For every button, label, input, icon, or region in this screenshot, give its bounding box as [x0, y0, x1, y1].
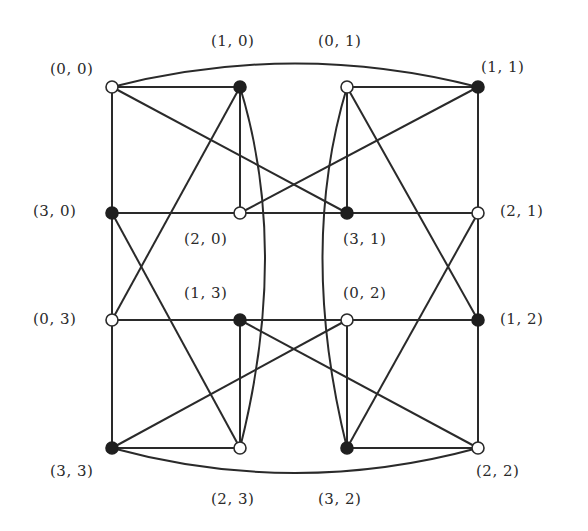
edge-0-1-to-3-2	[323, 87, 348, 448]
edges-layer	[112, 64, 478, 474]
node-3-3-black-circle-icon	[106, 442, 118, 454]
node-label-1-1: (1, 1)	[481, 58, 524, 76]
node-label-2-2: (2, 2)	[476, 462, 519, 480]
node-label-0-2: (0, 2)	[343, 284, 386, 302]
node-label-3-0: (3, 0)	[33, 202, 76, 220]
node-1-1-black-circle-icon	[472, 81, 484, 93]
node-label-1-0: (1, 0)	[211, 32, 254, 50]
node-0-2-white-circle-icon	[341, 314, 353, 326]
nodes-layer	[106, 81, 484, 454]
node-2-2-white-circle-icon	[472, 442, 484, 454]
graph-diagram	[0, 0, 588, 531]
node-3-2-black-circle-icon	[341, 442, 353, 454]
node-1-3-black-circle-icon	[234, 314, 246, 326]
node-label-3-3: (3, 3)	[50, 462, 93, 480]
node-2-0-white-circle-icon	[234, 207, 246, 219]
node-0-1-white-circle-icon	[341, 81, 353, 93]
node-label-0-1: (0, 1)	[318, 32, 361, 50]
node-label-3-1: (3, 1)	[343, 230, 386, 248]
node-label-2-0: (2, 0)	[184, 230, 227, 248]
node-2-1-white-circle-icon	[472, 207, 484, 219]
node-label-2-1: (2, 1)	[500, 202, 543, 220]
edge-1-0-to-2-3	[240, 87, 265, 448]
edge-0-0-to-1-1	[112, 64, 478, 88]
node-label-2-3: (2, 3)	[211, 490, 254, 508]
node-label-0-0: (0, 0)	[50, 60, 93, 78]
node-label-1-2: (1, 2)	[500, 310, 543, 328]
edge-1-1-to-2-0	[240, 87, 478, 213]
node-label-0-3: (0, 3)	[33, 310, 76, 328]
node-label-1-3: (1, 3)	[184, 284, 227, 302]
edge-1-3-to-2-2	[240, 320, 478, 448]
node-1-2-black-circle-icon	[472, 314, 484, 326]
node-label-3-2: (3, 2)	[318, 490, 361, 508]
node-0-3-white-circle-icon	[106, 314, 118, 326]
node-1-0-black-circle-icon	[234, 81, 246, 93]
node-2-3-white-circle-icon	[234, 442, 246, 454]
node-3-0-black-circle-icon	[106, 207, 118, 219]
node-0-0-white-circle-icon	[106, 81, 118, 93]
node-3-1-black-circle-icon	[341, 207, 353, 219]
edge-3-3-to-2-2	[112, 448, 478, 473]
